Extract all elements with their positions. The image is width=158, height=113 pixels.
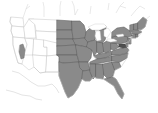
state-washington[interactable] [10, 17, 24, 27]
state-connecticut[interactable] [132, 34, 136, 38]
state-south-dakota[interactable] [57, 30, 73, 39]
state-alabama[interactable] [96, 64, 104, 79]
state-vermont[interactable] [130, 24, 134, 31]
state-north-dakota[interactable] [57, 20, 72, 30]
state-delaware[interactable] [126, 43, 128, 47]
state-new-mexico[interactable] [46, 55, 59, 72]
state-new-hampshire[interactable] [134, 23, 138, 30]
us-map-svg [0, 0, 158, 113]
state-oklahoma[interactable] [57, 55, 79, 63]
state-oregon[interactable] [11, 26, 25, 38]
us-choropleth-map-figure [0, 0, 158, 113]
state-kansas[interactable] [57, 45, 77, 55]
state-rhode-island[interactable] [136, 34, 138, 37]
